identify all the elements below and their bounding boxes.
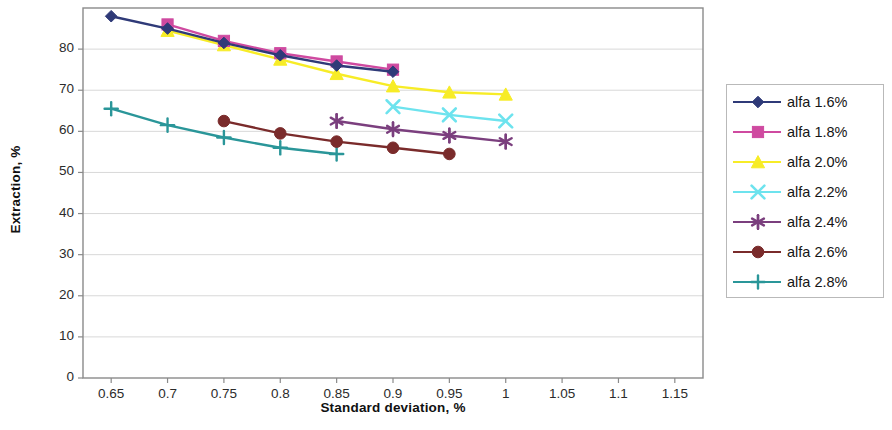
legend-item-label: alfa 2.2% bbox=[787, 184, 847, 200]
legend-marker-asterisk-icon bbox=[731, 210, 783, 234]
legend-item[interactable]: alfa 1.6% bbox=[727, 87, 883, 117]
y-tick-label: 60 bbox=[20, 122, 74, 137]
plot-frame bbox=[83, 8, 703, 378]
legend-marker-circle-icon bbox=[731, 240, 783, 264]
legend-item[interactable]: alfa 2.0% bbox=[727, 147, 883, 177]
y-tick-label: 0 bbox=[20, 369, 74, 384]
axis-tick-marks bbox=[78, 49, 675, 383]
legend-item-label: alfa 1.8% bbox=[787, 124, 847, 140]
legend-marker-diamond-icon bbox=[731, 90, 783, 114]
legend-item-label: alfa 2.6% bbox=[787, 244, 847, 260]
legend-marker-x-icon bbox=[731, 180, 783, 204]
legend-item[interactable]: alfa 2.6% bbox=[727, 237, 883, 267]
legend-marker-plus-icon bbox=[731, 270, 783, 294]
data-series-layer bbox=[105, 10, 513, 160]
legend-marker-triangle-icon bbox=[731, 150, 783, 174]
series-alfa-1-8- bbox=[162, 19, 399, 75]
legend-item[interactable]: alfa 2.2% bbox=[727, 177, 883, 207]
y-tick-label: 40 bbox=[20, 205, 74, 220]
y-tick-label: 70 bbox=[20, 81, 74, 96]
legend-item[interactable]: alfa 2.8% bbox=[727, 267, 883, 297]
chart-container: Extraction, % 01020304050607080 0.650.70… bbox=[0, 0, 892, 430]
legend-item-label: alfa 2.0% bbox=[787, 154, 847, 170]
y-tick-label: 10 bbox=[20, 328, 74, 343]
legend-item[interactable]: alfa 1.8% bbox=[727, 117, 883, 147]
series-alfa-1-6- bbox=[105, 10, 398, 77]
y-tick-label: 30 bbox=[20, 246, 74, 261]
legend-item-label: alfa 1.6% bbox=[787, 94, 847, 110]
legend: alfa 1.6%alfa 1.8%alfa 2.0%alfa 2.2%alfa… bbox=[726, 84, 884, 298]
legend-item-label: alfa 2.4% bbox=[787, 214, 847, 230]
y-tick-label: 80 bbox=[20, 40, 74, 55]
series-alfa-2-2- bbox=[387, 100, 513, 127]
legend-marker-square-icon bbox=[731, 120, 783, 144]
y-tick-label: 50 bbox=[20, 163, 74, 178]
x-axis-title: Standard deviation, % bbox=[320, 400, 465, 415]
y-tick-label: 20 bbox=[20, 287, 74, 302]
legend-item[interactable]: alfa 2.4% bbox=[727, 207, 883, 237]
legend-item-label: alfa 2.8% bbox=[787, 274, 847, 290]
x-axis-title-container: Standard deviation, % bbox=[83, 398, 703, 416]
